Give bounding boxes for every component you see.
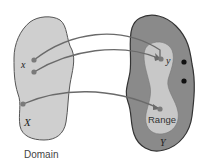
range-label: Range (148, 114, 176, 125)
function-mapping-diagram: x X Domain y Range Y (0, 0, 204, 167)
codomain-point (181, 59, 186, 64)
range-point-y (158, 56, 163, 61)
domain-point (31, 69, 36, 74)
element-x-label: x (20, 59, 26, 70)
codomain-point (181, 78, 186, 83)
range-point (157, 106, 162, 111)
domain-caption: Domain (24, 149, 58, 160)
domain-set-label: X (23, 116, 32, 128)
domain-point (20, 101, 25, 106)
domain-set (14, 17, 74, 140)
domain-point (31, 57, 36, 62)
element-y-label: y (165, 55, 171, 66)
